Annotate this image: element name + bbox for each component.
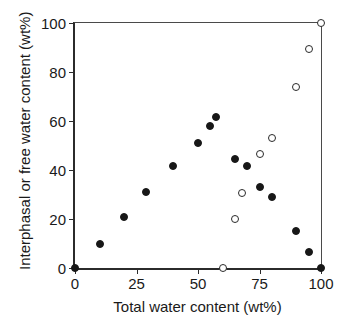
data-point-interphasal-water <box>268 193 276 201</box>
data-point-free-water <box>305 45 313 53</box>
data-point-free-water <box>292 83 300 91</box>
data-point-interphasal-water <box>256 183 264 191</box>
data-point-free-water <box>256 150 264 158</box>
x-axis-tick <box>260 268 261 274</box>
y-axis-tick <box>69 121 75 122</box>
y-axis-tick-label: 20 <box>49 212 66 227</box>
y-axis-tick-label: 60 <box>49 114 66 129</box>
x-axis-tick-label: 75 <box>251 276 268 291</box>
x-axis-tick <box>137 268 138 274</box>
data-point-interphasal-water <box>194 139 202 147</box>
y-axis-tick <box>69 170 75 171</box>
data-point-interphasal-water <box>71 264 79 272</box>
x-axis-tick-label: 25 <box>128 276 145 291</box>
y-axis-tick-label: 80 <box>49 65 66 80</box>
data-point-free-water <box>219 264 227 272</box>
caption-strip <box>0 321 352 332</box>
data-point-free-water <box>231 215 239 223</box>
data-point-interphasal-water <box>243 162 251 170</box>
x-axis-tick <box>198 268 199 274</box>
y-axis-tick-label: 0 <box>58 261 66 276</box>
data-point-interphasal-water <box>292 227 300 235</box>
data-point-interphasal-water <box>169 162 177 170</box>
y-axis-tick-label: 40 <box>49 163 66 178</box>
y-axis-tick <box>69 72 75 73</box>
data-point-interphasal-water <box>120 213 128 221</box>
data-point-interphasal-water <box>212 113 220 121</box>
data-point-free-water <box>268 134 276 142</box>
data-point-interphasal-water <box>96 240 104 248</box>
y-axis-label: Interphasal or free water content (wt%) <box>14 22 36 270</box>
data-point-interphasal-water <box>231 155 239 163</box>
x-axis-tick-label: 0 <box>71 276 79 291</box>
x-axis-tick-label: 50 <box>190 276 207 291</box>
y-axis-tick-label: 100 <box>41 16 66 31</box>
data-point-interphasal-water <box>305 248 313 256</box>
x-axis-tick-label: 100 <box>308 276 333 291</box>
data-point-interphasal-water <box>317 264 325 272</box>
y-axis-tick <box>69 219 75 220</box>
x-axis-label: Total water content (wt%) <box>73 299 322 314</box>
data-point-interphasal-water <box>206 122 214 130</box>
plot-area: 0204060801000255075100 <box>73 22 322 270</box>
scatter-plot-figure: 0204060801000255075100 Total water conte… <box>0 0 352 332</box>
data-point-free-water <box>317 19 325 27</box>
y-axis-tick <box>69 23 75 24</box>
data-point-interphasal-water <box>142 188 150 196</box>
data-point-free-water <box>238 189 246 197</box>
